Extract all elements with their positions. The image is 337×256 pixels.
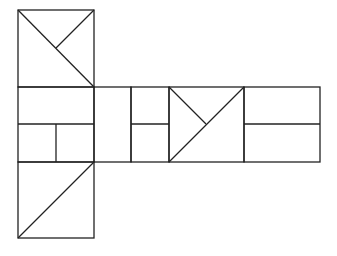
net-diagram [0,0,337,256]
center-square-half-diagonal [169,87,206,124]
bottom-square-diagonal [18,162,94,238]
middle-narrow-rect-1 [94,87,131,162]
top-square-half-diagonal [56,10,94,48]
